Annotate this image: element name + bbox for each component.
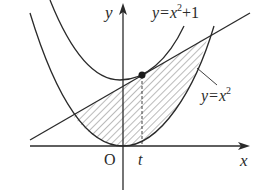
tangent-point <box>139 72 146 79</box>
origin-label: O <box>104 151 116 168</box>
upper-curve-label: y=x2+1 <box>150 2 199 22</box>
x-axis <box>30 142 250 150</box>
x-axis-label: x <box>239 151 248 170</box>
y-axis-label: y <box>103 3 113 22</box>
lower-curve-leader <box>197 68 217 85</box>
math-diagram: y y=x2+1 y=x2 O t x <box>0 0 262 194</box>
lower-curve-label: y=x2 <box>199 85 231 105</box>
t-label: t <box>138 151 143 168</box>
